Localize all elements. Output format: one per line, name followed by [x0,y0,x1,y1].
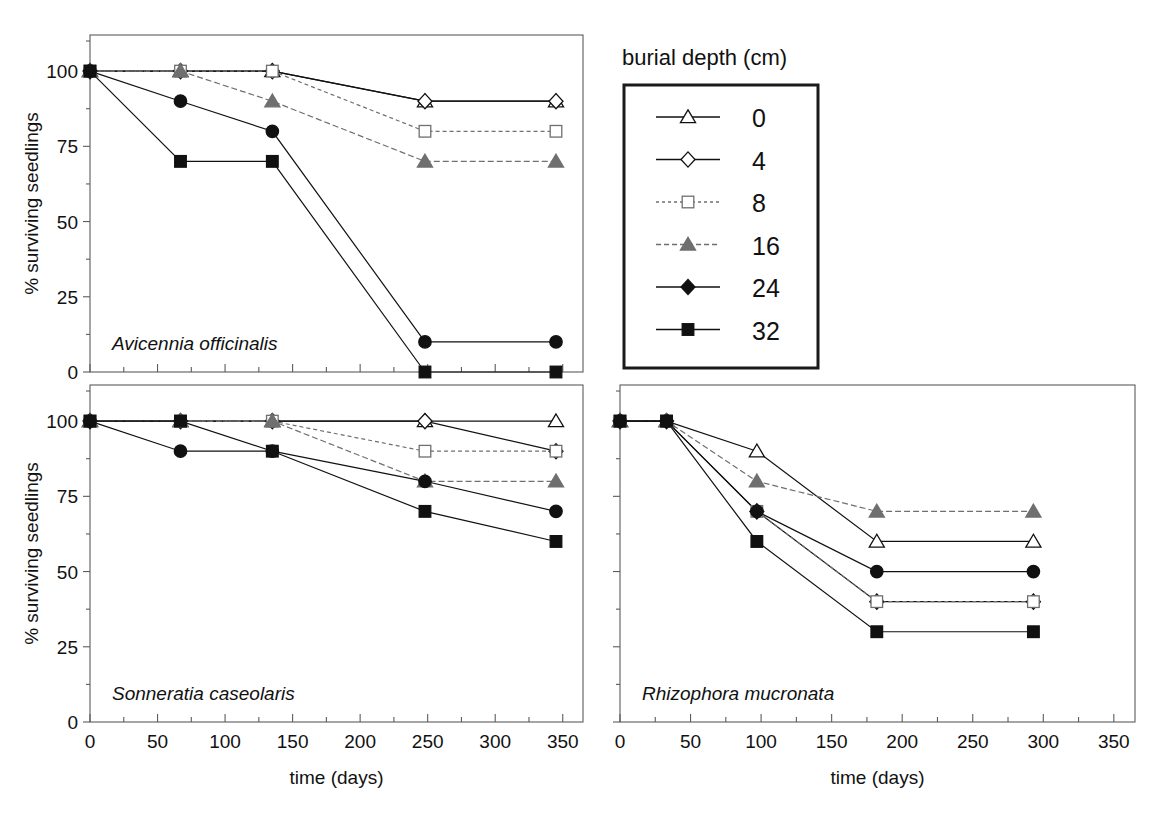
x-tick-label: 250 [412,731,444,752]
x-tick-label: 250 [957,731,989,752]
legend-title: burial depth (cm) [622,45,787,70]
data-point-0 [869,534,884,547]
data-point-24 [751,505,763,517]
x-tick-label: 300 [479,731,511,752]
species-label: Sonneratia caseolaris [112,683,295,704]
plot-frame [90,385,583,722]
data-point-32 [84,65,96,77]
x-tick-label: 150 [277,731,309,752]
panel-sonneratia: 0255075100050100150200250300350Sonnerati… [21,385,583,788]
x-tick-label: 100 [745,731,777,752]
data-point-32 [175,156,187,168]
series-line-4 [90,71,556,101]
multi-panel-survival-chart: 0255075100Avicennia officinalis% survivi… [0,0,1155,813]
y-tick-label: 0 [67,362,78,383]
x-tick-label: 350 [1098,731,1130,752]
data-point-8 [871,596,883,608]
x-tick-label: 350 [547,731,579,752]
data-point-32 [661,415,673,427]
x-tick-label: 200 [344,731,376,752]
y-tick-label: 25 [57,287,78,308]
x-tick-label: 50 [147,731,168,752]
legend-box [624,85,818,368]
legend-marker-square-filled [682,324,694,336]
data-point-16 [417,154,432,167]
figure-container: 0255075100Avicennia officinalis% survivi… [0,0,1155,813]
legend-label: 32 [752,317,780,345]
series-line-24 [90,71,556,342]
data-point-32 [267,445,279,457]
x-axis-title: time (days) [831,767,925,788]
series-line-32 [90,71,556,372]
data-point-32 [267,156,279,168]
data-point-8 [550,445,562,457]
species-label: Rhizophora mucronata [642,683,834,704]
data-point-0 [749,444,764,457]
data-point-32 [1028,626,1040,638]
data-point-8 [419,445,431,457]
x-tick-label: 300 [1027,731,1059,752]
y-tick-label: 75 [57,136,78,157]
legend: burial depth (cm)048162432 [622,45,818,368]
data-point-24 [419,336,431,348]
y-tick-label: 75 [57,486,78,507]
data-point-16 [749,474,764,487]
data-point-0 [1026,534,1041,547]
y-axis-title: % surviving seedlings [21,112,42,295]
data-point-24 [174,445,186,457]
y-tick-label: 25 [57,637,78,658]
x-tick-label: 0 [85,731,96,752]
data-point-32 [550,536,562,548]
series-line-16 [620,421,1033,511]
legend-label: 24 [752,274,780,302]
series-line-24 [620,421,1033,571]
y-tick-label: 100 [46,411,78,432]
series-line-0 [620,421,1033,541]
data-point-24 [550,505,562,517]
x-tick-label: 50 [680,731,701,752]
panel-rhizophora: 050100150200250300350Rhizophora mucronat… [612,385,1135,788]
data-point-32 [614,415,626,427]
data-point-24 [1027,565,1039,577]
data-point-8 [267,65,279,77]
series-line-0 [90,71,556,101]
data-point-24 [419,475,431,487]
y-tick-label: 50 [57,212,78,233]
data-point-24 [174,95,186,107]
data-point-8 [1028,596,1040,608]
data-point-32 [751,536,763,548]
data-point-32 [84,415,96,427]
data-point-32 [550,366,562,378]
panel-avicennia: 0255075100Avicennia officinalis% survivi… [21,35,583,383]
plot-frame [90,35,583,372]
x-tick-label: 150 [816,731,848,752]
y-tick-label: 100 [46,61,78,82]
y-tick-label: 0 [67,712,78,733]
data-point-16 [548,154,563,167]
data-point-16 [265,94,280,107]
legend-label: 0 [752,104,766,132]
series-line-4 [90,421,556,451]
data-point-24 [871,565,883,577]
data-point-16 [548,474,563,487]
data-point-0 [548,414,563,427]
data-point-8 [550,125,562,137]
legend-label: 8 [752,189,766,217]
data-point-32 [419,506,431,518]
data-point-24 [550,336,562,348]
data-point-8 [419,125,431,137]
series-line-16 [90,71,556,161]
data-point-32 [419,366,431,378]
legend-label: 4 [752,147,766,175]
y-axis-title: % surviving seedlings [21,462,42,645]
data-point-16 [1026,504,1041,517]
legend-label: 16 [752,232,780,260]
y-tick-label: 50 [57,562,78,583]
data-point-32 [871,626,883,638]
x-tick-label: 0 [615,731,626,752]
plot-frame [620,385,1135,722]
x-tick-label: 100 [209,731,241,752]
series-line-8 [90,421,556,451]
x-axis-title: time (days) [290,767,384,788]
legend-marker-square-open [682,196,694,208]
